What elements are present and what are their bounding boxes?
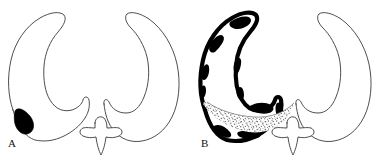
panel-label-a: A: [8, 138, 16, 149]
panel-label-b: B: [201, 138, 209, 149]
panel-a-right-lateral-ventricle: [104, 13, 179, 142]
panel-a: [0, 0, 193, 163]
panel-b-right-lateral-ventricle: [296, 13, 371, 142]
figure-canvas: A B: [0, 0, 385, 163]
panel-b: [192, 0, 385, 163]
